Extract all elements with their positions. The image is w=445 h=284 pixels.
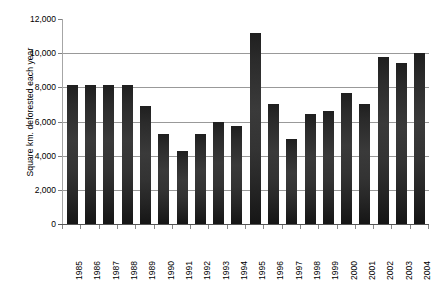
x-tick-label: 1987 [112, 261, 121, 284]
bar[interactable] [177, 151, 188, 224]
bar[interactable] [213, 122, 224, 224]
bar[interactable] [158, 134, 169, 225]
x-tick-label: 1997 [295, 261, 304, 284]
bars-layer [63, 19, 429, 224]
x-tick-label: 2002 [386, 261, 395, 284]
y-axis-tick-labels: 02,0004,0006,0008,00010,00012,000 [22, 0, 56, 263]
x-tick-label: 2000 [350, 261, 359, 284]
x-tick-label: 1988 [130, 261, 139, 284]
bar[interactable] [359, 104, 370, 224]
x-tick-label: 2003 [405, 261, 414, 284]
x-tick-label: 1994 [240, 261, 249, 284]
bar[interactable] [268, 104, 279, 224]
x-tick-label: 1996 [276, 261, 285, 284]
bar[interactable] [323, 111, 334, 224]
bar[interactable] [250, 33, 261, 224]
bar[interactable] [140, 106, 151, 224]
x-tick-label: 1999 [331, 261, 340, 284]
y-tick-label: 8,000 [22, 83, 56, 92]
y-tick-label: 0 [22, 220, 56, 229]
bar[interactable] [305, 114, 316, 224]
x-tick-label: 1990 [167, 261, 176, 284]
bar[interactable] [122, 85, 133, 224]
x-axis-tick-labels: 1985198619871988198919901991199219931994… [62, 229, 429, 263]
bar[interactable] [414, 53, 425, 224]
bar[interactable] [341, 93, 352, 224]
bar[interactable] [67, 85, 78, 224]
y-tick-label: 10,000 [22, 49, 56, 58]
x-tick-label: 1998 [313, 261, 322, 284]
bar[interactable] [286, 139, 297, 224]
x-tick-label: 1993 [222, 261, 231, 284]
y-tick-label: 12,000 [22, 15, 56, 24]
x-tick-label: 2004 [423, 261, 432, 284]
bar[interactable] [396, 63, 407, 224]
x-tick-label: 1991 [185, 261, 194, 284]
bar[interactable] [103, 85, 114, 224]
x-tick-label: 1995 [258, 261, 267, 284]
y-tick-label: 2,000 [22, 186, 56, 195]
y-tick-label: 6,000 [22, 117, 56, 126]
y-tick-label: 4,000 [22, 151, 56, 160]
x-tick-label: 1989 [148, 261, 157, 284]
bar[interactable] [231, 126, 242, 224]
x-tick-label: 1986 [93, 261, 102, 284]
bar[interactable] [195, 134, 206, 225]
bar[interactable] [85, 85, 96, 224]
x-tick-label: 2001 [368, 261, 377, 284]
bar[interactable] [378, 57, 389, 224]
x-tick-label: 1985 [75, 261, 84, 284]
x-tick-label: 1992 [203, 261, 212, 284]
plot-area [62, 19, 429, 224]
